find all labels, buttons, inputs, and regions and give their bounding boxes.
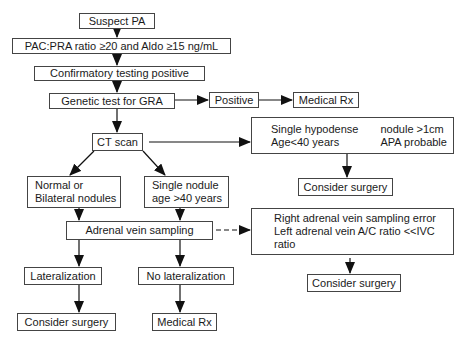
node-label: Positive <box>215 94 254 107</box>
node-label: Adrenal vein sampling <box>85 224 193 237</box>
node-label: Genetic test for GRA <box>61 95 162 108</box>
node-genetic-test: Genetic test for GRA <box>49 93 175 109</box>
node-label: Single nodule <box>152 179 222 192</box>
node-label: Confirmatory testing positive <box>50 67 189 80</box>
node-single-hypodense: Single hypodense Age<40 years nodule >1c… <box>251 117 454 154</box>
node-confirmatory-testing: Confirmatory testing positive <box>34 66 205 81</box>
node-label: Medical Rx <box>157 316 211 329</box>
node-label: APA probable <box>380 136 446 149</box>
node-consider-surgery-top: Consider surgery <box>298 178 393 196</box>
arrow-ct-to-single <box>143 151 165 175</box>
node-avs-error: Right adrenal vein sampling error Left a… <box>251 208 454 255</box>
node-consider-surgery-right: Consider surgery <box>307 274 401 292</box>
node-adrenal-vein-sampling: Adrenal vein sampling <box>66 221 213 240</box>
node-positive: Positive <box>209 92 259 108</box>
node-normal-bilateral: Normal or Bilateral nodules <box>27 176 121 208</box>
node-label: PAC:PRA ratio ≥20 and Aldo ≥15 ng/mL <box>25 40 218 53</box>
node-label: Bilateral nodules <box>35 192 116 205</box>
node-label: age >40 years <box>152 192 222 205</box>
node-label: No lateralization <box>147 270 226 283</box>
arrow-ct-to-normal <box>70 151 94 175</box>
node-label: Normal or <box>35 179 116 192</box>
node-label: Consider surgery <box>312 277 396 290</box>
node-consider-surgery-bottom: Consider surgery <box>17 313 116 331</box>
node-pac-pra-ratio: PAC:PRA ratio ≥20 and Aldo ≥15 ng/mL <box>12 38 231 54</box>
node-label: Right adrenal vein sampling error <box>274 212 436 225</box>
node-medical-rx-top: Medical Rx <box>293 92 359 108</box>
node-suspect-pa: Suspect PA <box>79 13 155 29</box>
node-label: Consider surgery <box>304 181 388 194</box>
node-label: Medical Rx <box>299 94 353 107</box>
node-lateralization: Lateralization <box>24 267 102 285</box>
node-ct-scan: CT scan <box>92 133 143 151</box>
node-label: Left adrenal vein A/C ratio <<IVC <box>274 225 436 238</box>
node-no-lateralization: No lateralization <box>138 267 234 285</box>
node-label: Age<40 years <box>271 136 358 149</box>
node-single-nodule: Single nodule age >40 years <box>144 176 229 208</box>
node-label: Single hypodense <box>271 123 358 136</box>
node-label: Suspect PA <box>89 15 146 28</box>
node-label: nodule >1cm <box>380 123 446 136</box>
node-label: Lateralization <box>30 270 95 283</box>
node-medical-rx-bottom: Medical Rx <box>152 313 217 331</box>
node-label: CT scan <box>97 136 138 149</box>
node-label: Consider surgery <box>25 316 109 329</box>
node-label: ratio <box>274 238 436 251</box>
